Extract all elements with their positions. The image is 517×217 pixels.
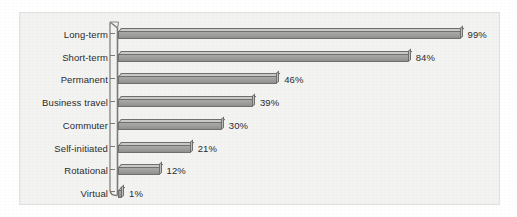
bar-commuter bbox=[118, 119, 222, 130]
value-label-rotational: 12% bbox=[167, 165, 186, 176]
bar-front-face bbox=[118, 167, 160, 175]
axis-tick bbox=[110, 33, 115, 34]
category-label-permanent: Permanent bbox=[8, 74, 108, 85]
bar-short-term bbox=[118, 51, 409, 62]
value-label-business-travel: 39% bbox=[260, 97, 279, 108]
axis-tick bbox=[110, 101, 115, 102]
category-label-business-travel: Business travel bbox=[8, 97, 108, 108]
bar-virtual bbox=[118, 187, 122, 198]
axis-tick bbox=[110, 169, 115, 170]
category-label-commuter: Commuter bbox=[8, 120, 108, 131]
axis-tick bbox=[110, 123, 115, 124]
category-label-long-term: Long-term bbox=[8, 29, 108, 40]
bar-front-face bbox=[118, 76, 277, 84]
bar-right-cap bbox=[159, 162, 162, 176]
bar-right-cap bbox=[221, 116, 224, 130]
bar-right-cap bbox=[121, 184, 124, 198]
bar-front-face bbox=[118, 122, 222, 130]
category-label-virtual: Virtual bbox=[8, 188, 108, 199]
value-label-short-term: 84% bbox=[416, 52, 435, 63]
bar-front-face bbox=[118, 99, 253, 107]
value-label-commuter: 30% bbox=[229, 120, 248, 131]
category-label-short-term: Short-term bbox=[8, 52, 108, 63]
bar-business-travel bbox=[118, 96, 253, 107]
bar-permanent bbox=[118, 73, 277, 84]
bar-right-cap bbox=[408, 48, 411, 62]
value-label-self-initiated: 21% bbox=[198, 143, 217, 154]
chart-figure: Long-term99%Short-term84%Permanent46%Bus… bbox=[0, 0, 517, 217]
value-label-permanent: 46% bbox=[284, 74, 303, 85]
bar-self-initiated bbox=[118, 142, 191, 153]
axis-tick bbox=[110, 55, 115, 56]
bar-right-cap bbox=[460, 25, 463, 39]
bar-front-face bbox=[118, 54, 409, 62]
bar-front-face bbox=[118, 145, 191, 153]
bar-front-face bbox=[118, 31, 461, 39]
bar-long-term bbox=[118, 28, 461, 39]
value-label-virtual: 1% bbox=[129, 188, 143, 199]
axis-tick bbox=[110, 146, 115, 147]
value-label-long-term: 99% bbox=[468, 29, 487, 40]
category-label-rotational: Rotational bbox=[8, 165, 108, 176]
bar-right-cap bbox=[276, 71, 279, 85]
axis-tick bbox=[110, 191, 115, 192]
bar-right-cap bbox=[252, 94, 255, 108]
category-label-self-initiated: Self-initiated bbox=[8, 143, 108, 154]
chart-labels-layer: Long-term99%Short-term84%Permanent46%Bus… bbox=[0, 0, 517, 217]
bar-right-cap bbox=[190, 139, 193, 153]
bar-rotational bbox=[118, 164, 160, 175]
axis-tick bbox=[110, 78, 115, 79]
